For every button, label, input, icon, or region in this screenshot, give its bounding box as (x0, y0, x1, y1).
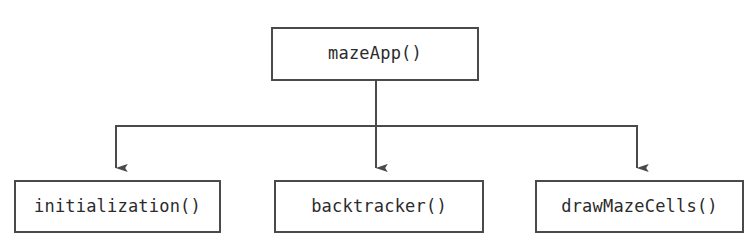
node-mazeapp-label: mazeApp() (328, 45, 422, 63)
node-drawmazecells-label: drawMazeCells() (561, 198, 718, 216)
node-backtracker-label: backtracker() (311, 198, 447, 216)
node-mazeapp: mazeApp() (271, 27, 479, 81)
node-backtracker: backtracker() (274, 180, 484, 233)
node-initialization: initialization() (14, 180, 221, 233)
diagram-canvas: mazeApp() initialization() backtracker()… (0, 0, 755, 245)
node-drawmazecells: drawMazeCells() (535, 180, 744, 233)
node-initialization-label: initialization() (34, 198, 201, 216)
